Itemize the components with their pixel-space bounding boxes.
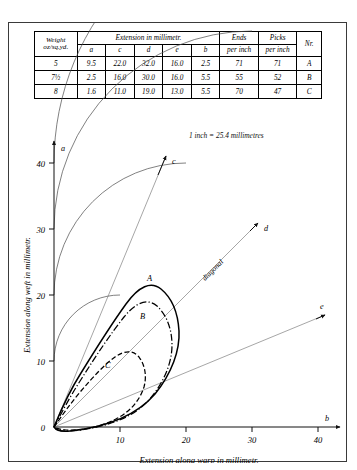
curve-C [54,352,145,430]
y-tick-30: 30 [35,225,45,235]
polar-extension-chart: 0 10 20 30 40 10 20 30 40 a c d e b diag… [9,23,348,463]
diagonal-annotation: diagonal [200,257,225,282]
polar-grid-arcs [54,23,318,361]
radial-axis-label-b: b [325,414,329,423]
radial-axis-label-e: e [320,302,324,311]
y-tick-40: 40 [36,159,45,169]
radial-axis-label-a: a [61,144,65,153]
y-tick-0: 0 [41,423,46,433]
curve-label-A: A [146,274,153,283]
curve-label-C: C [105,361,111,370]
extension-curves [54,285,179,431]
figure-frame: Weight oz/sq.yd. Extension in millimetr.… [8,22,347,462]
y-tick-10: 10 [36,357,45,367]
curve-label-B: B [140,312,145,321]
x-tick-20: 20 [182,435,191,445]
radial-axis-label-c: c [172,157,176,166]
curve-A [54,285,179,431]
x-tick-30: 30 [247,435,257,445]
y-tick-20: 20 [36,291,45,301]
x-axis-title: Extension along warp in millimetr. [138,455,258,463]
radial-axis-label-d: d [264,224,269,233]
x-tick-40: 40 [314,435,323,445]
polar-radial-axes [54,156,325,427]
x-tick-10: 10 [116,435,125,445]
y-axis-title: Extension along weft in millimetr. [22,237,32,354]
curve-B [54,302,172,431]
x-axis-ticks [120,427,318,432]
y-axis-ticks [49,163,54,361]
